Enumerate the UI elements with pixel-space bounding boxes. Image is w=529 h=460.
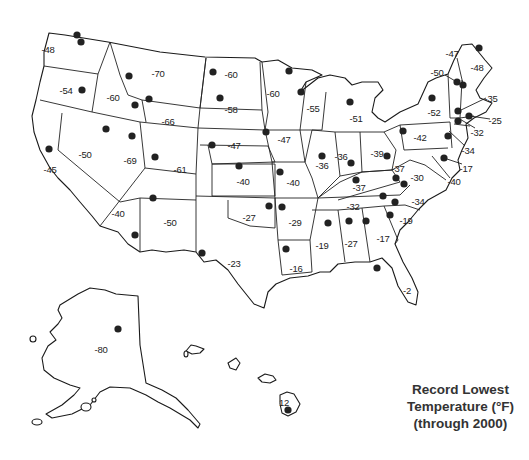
title-line-3: (through 2000): [398, 415, 523, 432]
state-value-label: -27: [242, 212, 255, 223]
state-value-label: 12: [279, 397, 289, 408]
state-value-label: -80: [94, 344, 107, 355]
state-value-label: -47: [445, 48, 458, 59]
state-value-label: -34: [411, 196, 424, 207]
state-value-label: -40: [236, 176, 249, 187]
state-value-label: -61: [173, 164, 186, 175]
state-value-label: -50: [78, 149, 91, 160]
state-value-label: -27: [344, 238, 357, 249]
state-value-label: -70: [151, 68, 164, 79]
state-value-label: -25: [488, 115, 501, 126]
state-value-label: -50: [430, 67, 443, 78]
map-title: Record Lowest Temperature (°F) (through …: [398, 381, 523, 432]
state-value-label: -50: [163, 217, 176, 228]
state-value-label: -34: [461, 145, 474, 156]
state-value-label: -30: [410, 172, 423, 183]
state-value-label: -60: [266, 88, 279, 99]
state-value-label: -66: [161, 116, 174, 127]
state-value-label: -40: [286, 177, 299, 188]
title-line-2: Temperature (°F): [398, 398, 523, 415]
state-value-label: -47: [277, 134, 290, 145]
state-value-label: -2: [403, 285, 411, 296]
state-value-label: -52: [427, 107, 440, 118]
state-value-label: -48: [41, 44, 54, 55]
state-value-label: -58: [224, 104, 237, 115]
state-value-label: -47: [227, 140, 240, 151]
state-value-label: -40: [447, 176, 460, 187]
state-value-label: -23: [227, 258, 240, 269]
state-value-label: -32: [346, 201, 359, 212]
state-value-label: -51: [349, 113, 362, 124]
state-value-label: -54: [59, 85, 72, 96]
state-value-label: -37: [391, 163, 404, 174]
state-value-label: -36: [334, 151, 347, 162]
state-value-label: -39: [370, 148, 383, 159]
state-value-label: -19: [399, 215, 412, 226]
state-value-label: -42: [413, 132, 426, 143]
state-value-label: -16: [289, 263, 302, 274]
state-value-label: -48: [470, 62, 483, 73]
state-value-label: -32: [470, 127, 483, 138]
title-line-1: Record Lowest: [398, 381, 523, 398]
state-value-label: -45: [43, 164, 56, 175]
state-value-label: -55: [306, 103, 319, 114]
state-value-label: -60: [106, 92, 119, 103]
state-value-label: -29: [288, 217, 301, 228]
state-value-label: -19: [315, 240, 328, 251]
state-value-label: -35: [484, 93, 497, 104]
state-value-label: -17: [376, 233, 389, 244]
state-value-label: -17: [459, 163, 472, 174]
alaska-outline: [42, 288, 200, 428]
state-value-label: -60: [224, 69, 237, 80]
state-value-label: -37: [352, 182, 365, 193]
state-outlines: [32, 33, 492, 308]
state-value-label: -40: [111, 208, 124, 219]
state-value-label: -69: [123, 155, 136, 166]
state-value-label: -36: [315, 160, 328, 171]
